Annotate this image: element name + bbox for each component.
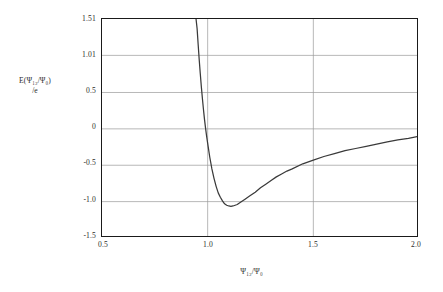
x-tick-labels: 0.5 1.0 1.5 2.0 xyxy=(0,240,443,254)
x-tick-label: 1.5 xyxy=(293,240,333,250)
plot-canvas xyxy=(102,19,418,237)
chart-figure: E(Ψ₁₂/Ψ₀) /e 1.51 1.01 0.5 0 -0.5 -1.0 -… xyxy=(0,0,443,292)
plot-area xyxy=(101,18,418,237)
gridlines xyxy=(102,19,418,237)
y-tick-label: -1.5 xyxy=(50,231,96,240)
y-tick-label: 1.01 xyxy=(50,50,96,59)
x-tick-label: 2.0 xyxy=(396,240,436,250)
y-tick-label: -0.5 xyxy=(50,158,96,167)
y-tick-label: 1.51 xyxy=(50,14,96,23)
data-curves xyxy=(196,19,418,206)
x-tick-label: 0.5 xyxy=(83,240,123,250)
data-line xyxy=(196,19,418,206)
y-tick-label: -1.0 xyxy=(50,195,96,204)
x-axis-title: Ψ₁₂/Ψ₀ xyxy=(0,266,443,277)
y-tick-label: 0.5 xyxy=(50,86,96,95)
y-tick-label: 0 xyxy=(50,122,96,131)
x-axis-title-label: Ψ₁₂/Ψ₀ xyxy=(240,266,262,277)
x-tick-label: 1.0 xyxy=(188,240,228,250)
